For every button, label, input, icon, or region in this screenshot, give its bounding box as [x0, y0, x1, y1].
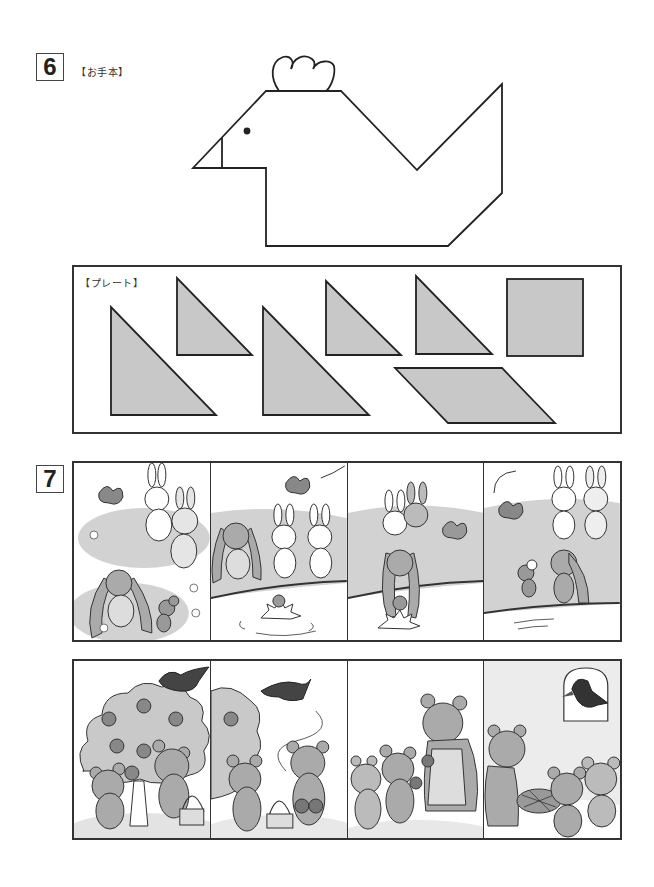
bird-icon — [99, 486, 123, 504]
rabbit-white-icon — [584, 466, 608, 539]
bird-icon — [285, 476, 309, 494]
apple-icon — [224, 712, 238, 726]
rabbit-gray-icon — [171, 487, 198, 568]
plate-square[interactable] — [507, 279, 583, 356]
apple-icon — [421, 755, 433, 767]
crow-icon — [159, 667, 209, 691]
strip2-panel-4[interactable] — [484, 661, 620, 838]
bear-cub-icon — [379, 745, 421, 823]
comic-strip-bears — [72, 659, 622, 840]
bear-cub-icon — [287, 741, 329, 825]
rabbit-gray-icon — [403, 482, 427, 527]
bird-icon — [499, 501, 523, 519]
strip1-panel-2[interactable] — [211, 463, 348, 640]
bird-icon — [442, 521, 466, 539]
basket-icon — [267, 801, 293, 828]
strip2-panel-1[interactable] — [74, 661, 211, 838]
mother-bear-icon — [420, 694, 477, 811]
plate-small-triangle-1[interactable] — [177, 278, 252, 355]
strip1-panel-1[interactable] — [74, 463, 211, 640]
rabbit-white-icon — [145, 463, 172, 541]
splash-icon — [261, 595, 301, 619]
question-number-7: 7 — [36, 465, 64, 493]
strip1-panel-3[interactable] — [348, 463, 485, 640]
strip2-panel-3[interactable] — [348, 661, 485, 838]
rabbit-white-icon — [552, 466, 576, 539]
crow-icon — [261, 679, 311, 701]
plate-parallelogram[interactable] — [395, 368, 555, 423]
comic-strip-rabbits — [72, 461, 622, 642]
strip1-panel-4[interactable] — [484, 463, 620, 640]
bear-cub-icon — [350, 756, 380, 829]
strip2-panel-2[interactable] — [211, 661, 348, 838]
plate-small-triangle-3[interactable] — [416, 276, 492, 354]
plate-small-triangle-2[interactable] — [326, 281, 401, 355]
